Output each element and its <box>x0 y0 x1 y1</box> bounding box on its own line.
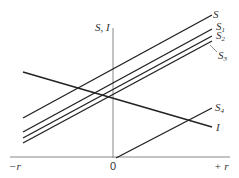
label-I: I <box>215 121 221 133</box>
x-axis-right-label: + r <box>214 160 229 172</box>
savings-investment-diagram: S, I S S1 S2 S3 S4 I −r 0 + r <box>0 0 239 178</box>
label-S3: S3 <box>218 49 228 63</box>
line-S <box>23 15 212 118</box>
label-S4: S4 <box>215 101 225 115</box>
line-S4 <box>116 108 212 158</box>
line-S3 <box>23 41 212 143</box>
label-S: S <box>213 8 219 20</box>
x-axis-origin-label: 0 <box>110 160 116 172</box>
y-axis-label: S, I <box>95 21 111 33</box>
S3-leader-line <box>210 45 217 52</box>
x-axis-left-label: −r <box>9 160 21 172</box>
